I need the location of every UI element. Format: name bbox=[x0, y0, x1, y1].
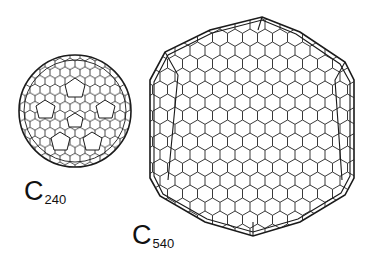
fullerene-figure bbox=[0, 0, 365, 255]
c540-cage bbox=[145, 12, 360, 242]
c540-label: C540 bbox=[132, 222, 174, 249]
c240-label: C240 bbox=[24, 178, 66, 205]
c240-subscript: 240 bbox=[45, 192, 67, 207]
c540-subscript: 540 bbox=[153, 236, 175, 251]
c240-cage bbox=[15, 50, 140, 175]
c540-symbol: C bbox=[132, 220, 152, 250]
c240-symbol: C bbox=[24, 176, 44, 206]
